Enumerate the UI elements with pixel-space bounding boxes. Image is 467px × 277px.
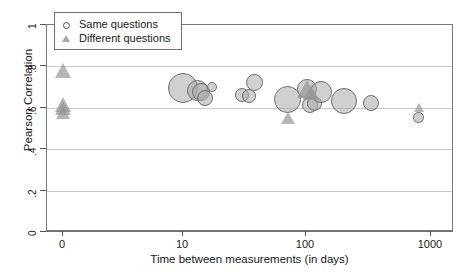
data-point-triangle (55, 63, 71, 78)
y-tick-label: .8 (27, 65, 38, 91)
x-tick-label: 100 (283, 238, 327, 250)
data-point-circle (242, 89, 256, 103)
data-point-circle (207, 82, 217, 92)
gridline (47, 191, 452, 192)
legend-label: Different questions (79, 32, 171, 44)
legend-item-same-questions: Same questions (61, 17, 171, 31)
x-tick-label: 10 (160, 238, 204, 250)
x-tick-mark (182, 231, 183, 236)
gridline (47, 149, 452, 150)
x-tick-label: 0 (40, 238, 84, 250)
data-point-circle (246, 74, 263, 91)
data-point-triangle (281, 112, 295, 124)
x-tick-mark (62, 231, 63, 236)
data-point-circle (331, 88, 357, 114)
y-tick-label: 1 (27, 24, 38, 50)
x-tick-label: 1000 (408, 238, 452, 250)
gridline (47, 66, 452, 67)
y-tick-label: .2 (27, 189, 38, 215)
data-point-circle (197, 90, 213, 106)
data-point-triangle (56, 106, 70, 119)
x-tick-mark (305, 231, 306, 236)
chart-figure: Pearson Correlation 1.8.6.4.20 010100100… (0, 0, 467, 277)
y-tick-label: .6 (27, 106, 38, 132)
plot-area (46, 24, 453, 231)
legend-label: Same questions (79, 18, 158, 30)
data-point-circle (413, 112, 424, 123)
x-axis-title: Time between measurements (in days) (46, 253, 453, 265)
circle-marker-icon (61, 19, 72, 30)
data-point-circle (363, 95, 379, 111)
gridline (47, 108, 452, 109)
y-tick-label: .4 (27, 148, 38, 174)
data-point-triangle (303, 85, 319, 100)
y-tick-label: 0 (27, 231, 38, 257)
data-point-triangle (414, 103, 424, 112)
legend-item-different-questions: Different questions (61, 31, 171, 45)
x-tick-mark (430, 231, 431, 236)
x-axis-line (46, 231, 453, 232)
triangle-marker-icon (61, 33, 72, 44)
chart-legend: Same questions Different questions (54, 12, 182, 50)
